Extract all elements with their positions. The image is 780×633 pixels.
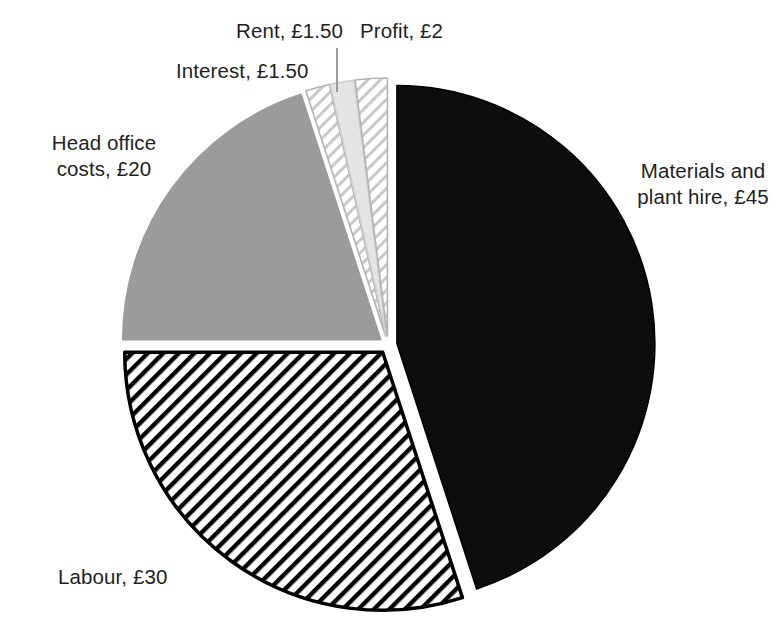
slice-label-labour: Labour, £30 bbox=[58, 564, 240, 590]
slice-label-line2: costs, £20 bbox=[57, 157, 151, 180]
slice-label-profit: Profit, £2 bbox=[360, 18, 496, 44]
slice-label-line1: Head office bbox=[52, 131, 156, 154]
slice-label-line1: Interest, £1.50 bbox=[176, 59, 309, 82]
slice-label-interest: Interest, £1.50 bbox=[176, 58, 316, 84]
slice-label-line1: Profit, £2 bbox=[360, 19, 443, 42]
slice-label-materials-and-plant-hire: Materials andplant hire, £45 bbox=[628, 158, 778, 210]
pie-chart: Head officecosts, £20 Interest, £1.50 Re… bbox=[0, 0, 780, 633]
pie-slices-group bbox=[123, 78, 655, 610]
slice-label-line1: Labour, £30 bbox=[58, 565, 167, 588]
slice-label-line1: Rent, £1.50 bbox=[236, 19, 343, 42]
slice-label-line2: plant hire, £45 bbox=[637, 185, 768, 208]
slice-label-line1: Materials and bbox=[641, 159, 765, 182]
pie-chart-canvas bbox=[0, 0, 780, 633]
slice-label-head-office-costs: Head officecosts, £20 bbox=[18, 130, 190, 182]
